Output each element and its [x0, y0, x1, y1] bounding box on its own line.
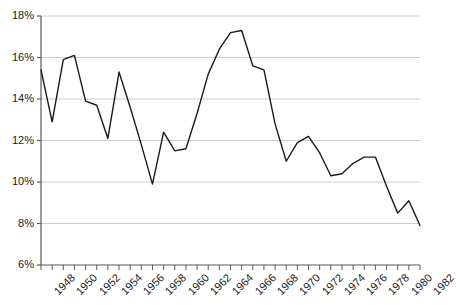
- y-axis-tick-label: 8%: [0, 218, 34, 229]
- y-axis-tick-label: 14%: [0, 93, 34, 104]
- y-axis-tick-label: 6%: [0, 259, 34, 270]
- data-series-line: [41, 31, 420, 226]
- y-axis-tick-label: 16%: [0, 52, 34, 63]
- x-axis-tick-label: 1982: [431, 272, 456, 297]
- y-axis-tick-label: 12%: [0, 135, 34, 146]
- y-axis-tick-label: 10%: [0, 176, 34, 187]
- gridlines: [41, 16, 420, 224]
- y-axis-tick-label: 18%: [0, 10, 34, 21]
- x-axis-ticks: [41, 265, 420, 270]
